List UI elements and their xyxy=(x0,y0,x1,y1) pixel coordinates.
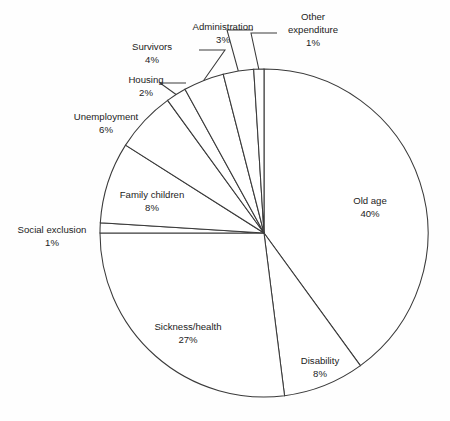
pie-label-social-exclusion: Social exclusion xyxy=(18,224,87,235)
leader-line-other-expenditure xyxy=(251,33,277,69)
pie-label-administration: Administration xyxy=(193,21,254,32)
pie-slices-group xyxy=(100,69,428,397)
pie-value-social-exclusion: 1% xyxy=(45,237,59,248)
pie-label-housing: Housing xyxy=(128,74,163,85)
pie-value-sickness-health: 27% xyxy=(178,334,198,345)
pie-value-family-children: 8% xyxy=(145,202,159,213)
pie-value-administration: 3% xyxy=(216,34,230,45)
pie-label-old-age: Old age xyxy=(353,195,387,206)
leader-line-administration xyxy=(227,30,253,71)
pie-value-housing: 2% xyxy=(139,87,153,98)
pie-chart-svg: Old age40%Disability8%Sickness/health27%… xyxy=(0,0,450,421)
pie-label-disability: Disability xyxy=(301,355,340,366)
pie-chart-container: Old age40%Disability8%Sickness/health27%… xyxy=(0,0,450,421)
pie-label-other-expenditure-line2: expenditure xyxy=(288,24,338,35)
pie-label-unemployment: Unemployment xyxy=(74,111,139,122)
pie-value-survivors: 4% xyxy=(145,54,159,65)
pie-label-other-expenditure: Other xyxy=(301,11,326,22)
pie-label-survivors: Survivors xyxy=(132,41,172,52)
pie-value-disability: 8% xyxy=(313,368,327,379)
pie-value-other-expenditure: 1% xyxy=(306,37,320,48)
pie-label-sickness-health: Sickness/health xyxy=(154,321,221,332)
pie-value-old-age: 40% xyxy=(360,208,380,219)
pie-label-family-children: Family children xyxy=(120,189,185,200)
pie-slice-sickness-health[interactable] xyxy=(100,233,285,397)
pie-value-unemployment: 6% xyxy=(99,124,113,135)
